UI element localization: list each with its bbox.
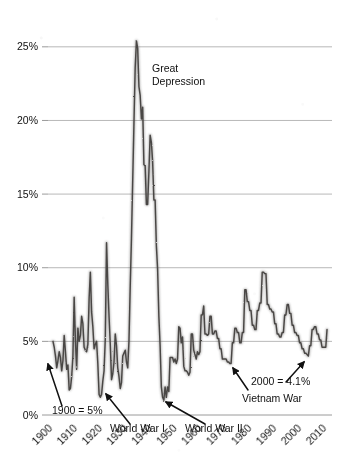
annotation-arrow-start-1900 (48, 364, 62, 406)
y-tick-label: 10% (17, 261, 38, 273)
y-axis-ticks: 0%5%10%15%20%25% (17, 40, 38, 420)
annotation-label-great-depression: Depression (152, 75, 205, 87)
y-tick-label: 5% (23, 335, 38, 347)
x-tick-label: 2000 (279, 422, 304, 447)
x-tick-label: 1920 (79, 422, 104, 447)
x-tick-label: 1910 (54, 422, 79, 447)
gridlines (42, 47, 332, 415)
y-tick-label: 20% (17, 114, 38, 126)
x-axis-ticks: 1900191019201930194019501960197019801990… (29, 422, 328, 447)
annotation-label-start-1900: 1900 = 5% (52, 404, 103, 416)
annotation-label-year-2000: 2000 = 4.1% (251, 375, 310, 387)
y-tick-label: 25% (17, 40, 38, 52)
annotation-arrow-vietnam-war (233, 368, 248, 390)
annotation-label-world-war-1: World War I (110, 422, 165, 434)
annotation-label-world-war-2: World War II (185, 422, 243, 434)
x-tick-label: 1900 (29, 422, 54, 447)
y-tick-label: 15% (17, 188, 38, 200)
annotations: GreatDepression1900 = 5%World War IWorld… (48, 62, 310, 434)
chart-svg: 0%5%10%15%20%25% 19001910192019301940195… (0, 0, 344, 474)
unemployment-chart: 0%5%10%15%20%25% 19001910192019301940195… (0, 0, 344, 474)
x-tick-label: 2010 (303, 422, 328, 447)
y-tick-label: 0% (23, 409, 38, 421)
annotation-arrow-world-war-2 (166, 402, 205, 424)
annotation-label-vietnam-war: Vietnam War (242, 392, 303, 404)
annotation-label-great-depression: Great (152, 62, 178, 74)
x-tick-label: 1990 (254, 422, 279, 447)
annotation-arrow-world-war-1 (106, 394, 130, 424)
